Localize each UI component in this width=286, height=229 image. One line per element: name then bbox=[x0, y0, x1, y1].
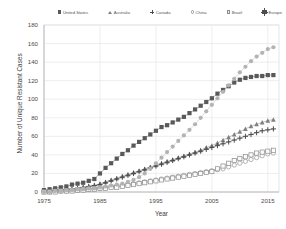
plot-area bbox=[0, 0, 286, 229]
chart-container: United States Australia Canada China Bra… bbox=[0, 0, 286, 229]
